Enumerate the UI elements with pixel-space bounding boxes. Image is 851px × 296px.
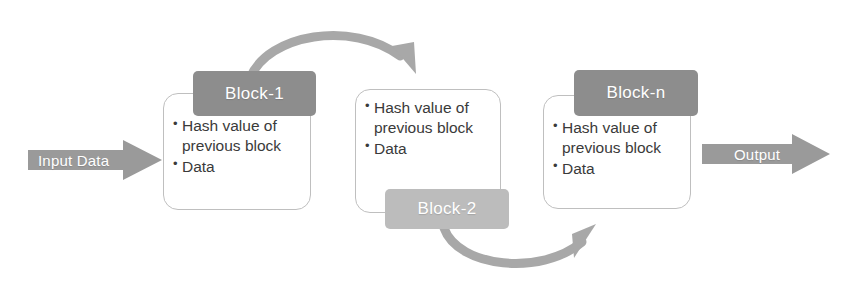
- block-label-2: Block-2: [418, 199, 477, 219]
- block-body-n: Hash value of previous block Data: [553, 118, 684, 179]
- block-body-1: Hash value of previous block Data: [173, 116, 304, 177]
- block-body-2: Hash value of previous block Data: [365, 98, 494, 159]
- output-arrow-label: Output: [734, 146, 780, 163]
- block-label-tab-1: Block-1: [193, 71, 316, 116]
- diagram-canvas: Input Data Hash value of previous block …: [0, 0, 851, 296]
- list-item: Data: [173, 157, 304, 177]
- block-label-tab-n: Block-n: [574, 70, 698, 116]
- output-arrow: Output: [702, 134, 830, 174]
- list-item: Hash value of previous block: [365, 98, 494, 138]
- block-label-1: Block-1: [225, 84, 284, 104]
- list-item: Hash value of previous block: [173, 116, 304, 156]
- list-item: Data: [553, 159, 684, 179]
- block-label-tab-2: Block-2: [385, 189, 509, 229]
- block-label-n: Block-n: [607, 83, 666, 103]
- list-item: Hash value of previous block: [553, 118, 684, 158]
- curved-arrow-icon-bottom: [432, 220, 607, 282]
- input-data-arrow-label: Input Data: [38, 152, 109, 169]
- input-data-arrow: Input Data: [28, 140, 162, 180]
- list-item: Data: [365, 139, 494, 159]
